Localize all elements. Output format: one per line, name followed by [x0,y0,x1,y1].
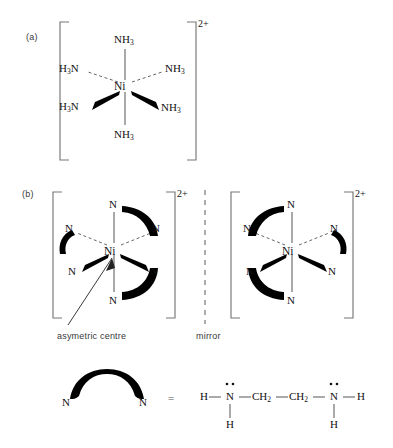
formula-ch2-right: CH2 [289,390,308,404]
legend-equals: = [168,392,174,404]
formula-h-below-left: H [226,418,234,430]
legend-arc-atom-left: N [62,396,70,408]
formula-ch2-left: CH2 [252,390,271,404]
legend-arc-atom-right: N [139,396,147,408]
formula-n-left: N [226,390,234,402]
lone-pair-dot-right-1 [330,383,333,386]
formula-h-below-right: H [330,418,338,430]
lone-pair-dot-left-1 [226,383,229,386]
formula-n-right: N [330,390,338,402]
legend-graphics [0,0,393,448]
legend-chelate-arc [70,369,144,399]
figure-canvas: (a) Ni NH3 H3N NH3 H3N NH3 NH3 2+ (b) [0,0,393,448]
formula-h-left: H [200,390,208,402]
lone-pair-dot-left-2 [232,383,235,386]
lone-pair-dot-right-2 [336,383,339,386]
formula-h-right: H [357,390,365,402]
